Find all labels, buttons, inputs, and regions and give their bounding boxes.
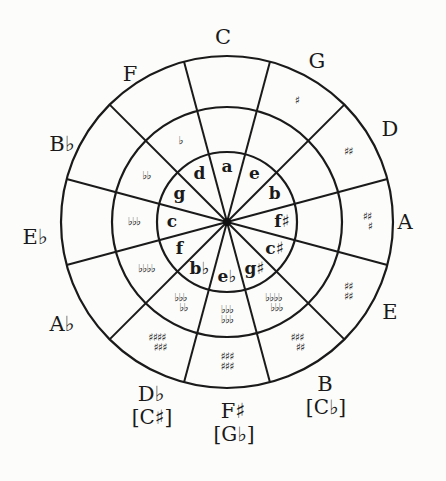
major-key-label: E [382, 300, 397, 324]
minor-key-label: e♭ [218, 266, 237, 286]
major-key-label: E♭ [22, 225, 47, 249]
major-key-labels: CGDAEB[C♭]F♯[G♭]D♭[C♯]A♭E♭B♭F [22, 25, 413, 446]
sector-divider [67, 179, 227, 222]
center-hub [223, 218, 231, 226]
major-key-label: B [317, 372, 332, 396]
key-signature: ♭♭ [142, 169, 151, 182]
major-key-label: B♭ [49, 132, 74, 156]
minor-key-label: b♭ [190, 258, 210, 278]
key-signature: ♯ [368, 220, 373, 233]
minor-key-label: g [173, 183, 185, 203]
minor-key-label: g♯ [244, 258, 264, 278]
minor-key-label: e [249, 163, 260, 183]
enharmonic-label: [C♯] [132, 405, 173, 429]
minor-key-label: c♯ [265, 238, 284, 258]
spokes [67, 62, 388, 383]
minor-key-label: a [221, 156, 232, 176]
major-key-label: F [123, 62, 138, 86]
major-key-label: D [382, 117, 399, 141]
key-signature: ♭♭♭ [221, 313, 234, 326]
minor-key-label: c [167, 211, 177, 231]
minor-key-label: f [176, 238, 185, 258]
key-signature: ♯♯ [296, 341, 305, 354]
circle-of-fifths-diagram: CGDAEB[C♭]F♯[G♭]D♭[C♯]A♭E♭B♭F aebf♯c♯g♯e… [0, 0, 446, 481]
sector-divider [184, 62, 227, 222]
major-key-label: A♭ [48, 312, 74, 336]
minor-key-label: b [269, 183, 281, 203]
major-key-label: A [396, 210, 413, 234]
key-signature: ♭♭♭ [128, 215, 141, 228]
key-signature: ♭♭♭ [270, 301, 283, 314]
key-signature: ♭ [178, 134, 183, 147]
key-signature: ♯♯ [344, 290, 353, 303]
major-key-label: G [309, 49, 326, 73]
key-signature: ♯♯♯ [221, 360, 235, 373]
minor-key-label: f♯ [274, 211, 290, 231]
key-signature: ♭♭ [179, 301, 188, 314]
enharmonic-label: [G♭] [213, 422, 254, 446]
major-key-label: F♯ [221, 399, 246, 423]
key-signature: ♯♯ [344, 145, 353, 158]
key-signature: ♭♭♭♭ [138, 262, 156, 275]
enharmonic-label: [C♭] [306, 395, 346, 419]
key-signature: ♯ [295, 94, 300, 107]
key-signature: ♯♯♯ [154, 341, 168, 354]
minor-key-label: d [194, 163, 206, 183]
sector-divider [227, 62, 270, 222]
major-key-label: D♭ [138, 382, 165, 406]
major-key-label: C [215, 25, 231, 49]
